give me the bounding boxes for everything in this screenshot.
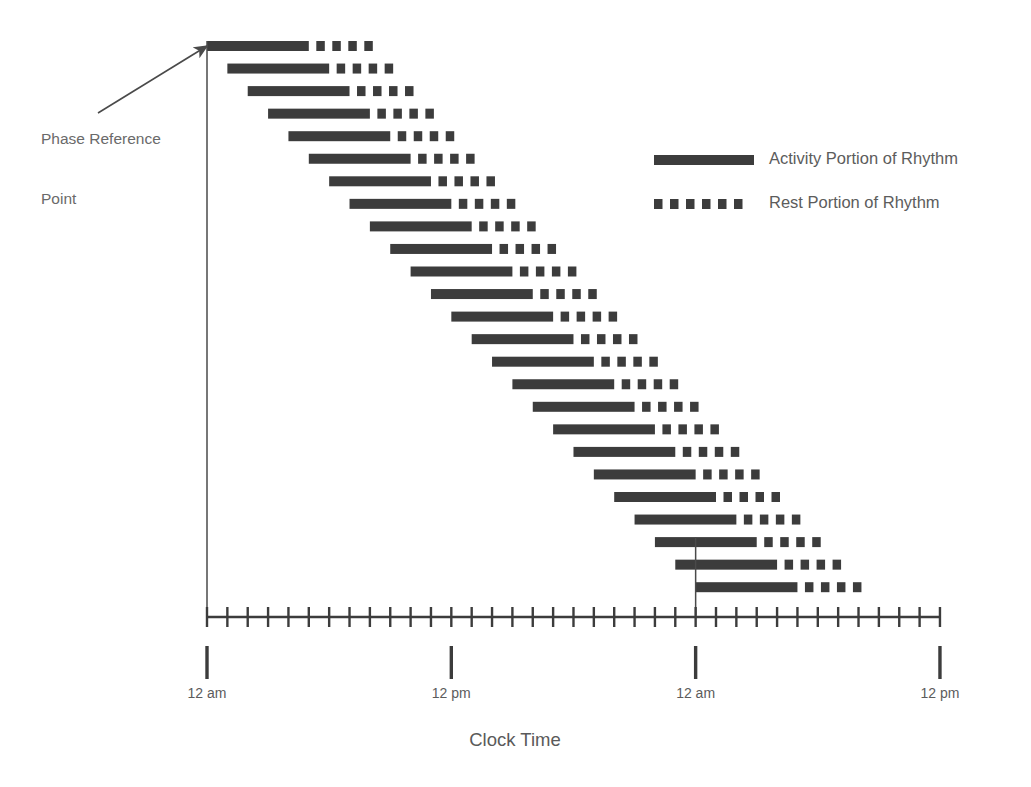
rest-dash	[710, 424, 719, 434]
rest-dash	[690, 402, 699, 412]
rest-dash	[760, 515, 769, 525]
activity-bar	[451, 312, 553, 322]
activity-bar	[492, 357, 594, 367]
actogram-row	[594, 469, 760, 479]
rest-dash	[821, 582, 830, 592]
rest-dash	[633, 357, 642, 367]
x-axis-title: Clock Time	[469, 729, 561, 751]
rest-dash	[572, 289, 581, 299]
rest-dash	[785, 560, 794, 570]
rest-dash	[511, 221, 520, 231]
actogram-row	[350, 199, 516, 209]
activity-bar	[411, 267, 513, 277]
rest-dash	[450, 154, 459, 164]
x-axis-tick-label: 12 am	[188, 685, 227, 701]
phase-reference-label-line-1: Phase Reference	[41, 129, 161, 149]
rest-dash	[568, 267, 577, 277]
rest-dash	[491, 199, 500, 209]
activity-bar	[288, 131, 390, 141]
activity-bar	[655, 537, 757, 547]
activity-bar	[370, 221, 472, 231]
rest-dash	[649, 357, 658, 367]
phase-reference-label-line-2: Point	[41, 189, 161, 209]
rest-dash	[377, 109, 386, 119]
rest-dash	[780, 537, 789, 547]
rest-dash	[475, 199, 484, 209]
activity-bar	[207, 41, 309, 51]
legend-swatch-activity	[654, 155, 754, 165]
rest-dash	[425, 109, 434, 119]
rest-dash	[357, 86, 366, 96]
rest-dash	[662, 424, 671, 434]
rest-dash	[548, 244, 557, 254]
activity-bar	[614, 492, 716, 502]
legend-dash	[670, 199, 679, 209]
activity-bar	[309, 154, 411, 164]
legend-marks	[654, 155, 754, 209]
legend-label-activity: Activity Portion of Rhythm	[769, 149, 958, 168]
x-axis-tick-label: 12 pm	[432, 685, 471, 701]
legend-dash	[686, 199, 695, 209]
rest-dash	[405, 86, 414, 96]
rest-dash	[552, 267, 561, 277]
legend-swatch-rest	[654, 199, 743, 209]
actogram-row	[207, 41, 373, 51]
rest-dash	[389, 86, 398, 96]
rest-dash	[617, 357, 626, 367]
rest-dash	[409, 109, 418, 119]
rest-dash	[520, 267, 529, 277]
actogram-row	[268, 109, 434, 119]
rest-dash	[772, 492, 781, 502]
rest-dash	[683, 447, 692, 457]
actogram-row	[696, 582, 862, 592]
actogram-row	[390, 244, 556, 254]
rest-dash	[434, 154, 443, 164]
activity-bar	[635, 515, 737, 525]
rest-dash	[638, 379, 647, 389]
rest-dash	[670, 379, 679, 389]
rest-dash	[601, 357, 610, 367]
rest-dash	[500, 244, 509, 254]
rest-dash	[853, 582, 862, 592]
activity-bar	[696, 582, 798, 592]
rest-dash	[796, 537, 805, 547]
rest-dash	[801, 560, 810, 570]
rest-dash	[364, 41, 373, 51]
phase-reference-lines	[207, 41, 696, 615]
actogram-row	[533, 402, 699, 412]
rest-dash	[581, 334, 590, 344]
actogram-row	[573, 447, 739, 457]
rest-dash	[751, 469, 760, 479]
actogram-row	[675, 560, 841, 570]
rest-dash	[454, 176, 463, 186]
rest-dash	[438, 176, 447, 186]
legend-label-rest: Rest Portion of Rhythm	[769, 193, 940, 212]
rest-dash	[658, 402, 667, 412]
rest-dash	[398, 131, 407, 141]
actogram-row	[614, 492, 780, 502]
activity-bar	[472, 334, 574, 344]
actogram-row	[431, 289, 597, 299]
phase-reference-point-label: Phase Reference Point	[41, 89, 161, 249]
legend-dash	[718, 199, 727, 209]
rest-dash	[674, 402, 683, 412]
rest-dash	[731, 447, 740, 457]
rest-dash	[805, 582, 814, 592]
rest-dash	[588, 289, 597, 299]
rest-dash	[622, 379, 631, 389]
rest-dash	[369, 64, 378, 74]
rest-dash	[536, 267, 545, 277]
rest-dash	[703, 469, 712, 479]
legend-dash	[702, 199, 711, 209]
rest-dash	[540, 289, 549, 299]
rest-dash	[495, 221, 504, 231]
rest-dash	[776, 515, 785, 525]
actogram-row	[370, 221, 536, 231]
actogram-row	[288, 131, 454, 141]
activity-bar	[533, 402, 635, 412]
activity-bar	[248, 86, 350, 96]
actogram-row	[309, 154, 475, 164]
actogram-row	[512, 379, 678, 389]
rest-dash	[694, 424, 703, 434]
rest-dash	[393, 109, 402, 119]
